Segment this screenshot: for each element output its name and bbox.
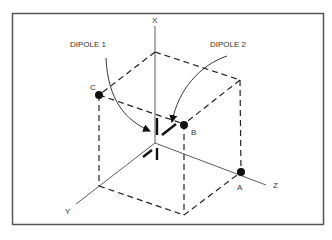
dipole-cube-diagram: DIPOLE 1 DIPOLE 2 X Y Z A B C [0,0,332,240]
point-a-marker [237,168,245,176]
dashed-cube [99,52,241,215]
x-axis-label: X [152,16,158,25]
axes [76,26,266,204]
point-c-label: C [90,83,96,92]
dipole-1-label: DIPOLE 1 [70,40,107,49]
dipole-2-label: DIPOLE 2 [210,40,247,49]
z-axis-label: Z [273,181,278,190]
point-a-label: A [237,183,243,192]
point-b-marker [180,121,188,129]
point-c-marker [95,91,103,99]
point-b-label: B [191,128,196,137]
dipole-elements [143,118,176,160]
z-axis [155,143,266,185]
y-axis [76,143,155,204]
y-axis-label: Y [65,207,71,216]
dipole-1-arrow [106,58,150,131]
dipole-2-element-upper [162,124,176,135]
